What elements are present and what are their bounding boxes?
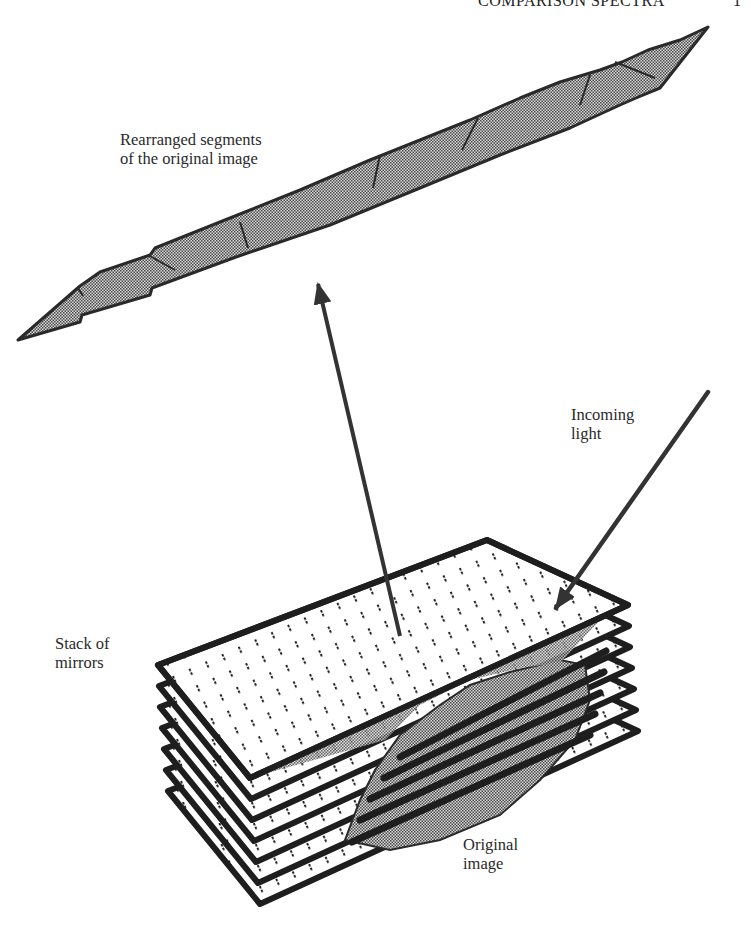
incoming-line-1: Incoming	[571, 405, 634, 424]
original-line-1: Original	[463, 835, 518, 854]
rearranged-line-1: Rearranged segments	[120, 130, 262, 149]
incoming-line-2: light	[571, 424, 634, 443]
stack-line-2: mirrors	[55, 653, 110, 672]
rearranged-segments-label: Rearranged segments of the original imag…	[120, 130, 262, 168]
stack-of-mirrors-label: Stack of mirrors	[55, 634, 110, 672]
outgoing-light-arrow	[318, 284, 400, 636]
original-line-2: image	[463, 854, 518, 873]
image-slicer-diagram	[0, 0, 751, 935]
rearranged-line-2: of the original image	[120, 149, 262, 168]
original-image-label: Original image	[463, 835, 518, 873]
incoming-light-label: Incoming light	[571, 405, 634, 443]
rearranged-strip	[18, 27, 708, 340]
stack-line-1: Stack of	[55, 634, 110, 653]
